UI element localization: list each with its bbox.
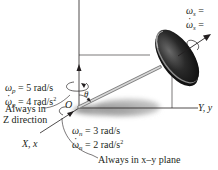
z-direction-note-line1: Always in	[5, 104, 46, 114]
origin-label: O	[65, 100, 72, 110]
y-axis-label: Y, y	[198, 103, 212, 113]
omega-n-dot-label: ωn = 2 rad/s2	[72, 137, 123, 153]
theta-label: θ	[84, 89, 88, 99]
xy-plane-note: Always in x–y plane	[98, 155, 181, 165]
omega-n-arrowhead	[67, 111, 74, 117]
z-direction-note-line2: Z direction	[3, 115, 47, 125]
omega-p-curl-arrowhead	[81, 83, 86, 88]
omega-s-arrowhead	[203, 34, 211, 41]
omega-s-dot-label: ωs =	[186, 20, 204, 33]
omega-p-arrowhead	[77, 64, 82, 71]
x-axis-label: X, x	[22, 139, 38, 149]
